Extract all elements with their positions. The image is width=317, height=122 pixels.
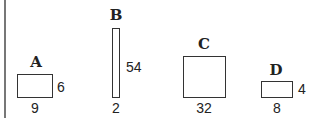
shape-c-width: 32 bbox=[196, 101, 212, 115]
shape-b-width: 2 bbox=[112, 101, 120, 115]
shape-c-square bbox=[183, 56, 226, 98]
shape-a-width: 9 bbox=[31, 101, 39, 115]
shape-d-label: D bbox=[269, 63, 282, 78]
shape-d-rectangle bbox=[261, 81, 293, 98]
shape-d-height: 4 bbox=[298, 82, 306, 96]
left-border-line bbox=[4, 0, 6, 118]
shape-c-label: C bbox=[198, 37, 210, 52]
shape-d-width: 8 bbox=[273, 101, 281, 115]
shape-a-height: 6 bbox=[57, 80, 65, 94]
shape-b-rectangle bbox=[112, 28, 120, 98]
shape-a-rectangle bbox=[17, 74, 53, 98]
shape-a-label: A bbox=[30, 55, 42, 70]
shape-b-label: B bbox=[110, 8, 123, 23]
shape-b-height: 54 bbox=[126, 60, 142, 74]
